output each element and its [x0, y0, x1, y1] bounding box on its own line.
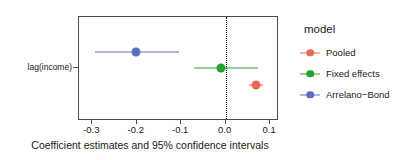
legend-key-icon: [300, 47, 320, 59]
legend-key-icon: [300, 89, 320, 101]
x-axis-tick-label: 0.0: [218, 124, 231, 136]
x-axis-tick-label: -0.1: [172, 124, 188, 136]
legend-item[interactable]: Arrelano−Bond: [300, 85, 415, 104]
legend-title: model: [304, 22, 415, 36]
legend-item[interactable]: Fixed effects: [300, 64, 415, 83]
legend: model PooledFixed effectsArrelano−Bond: [300, 22, 415, 106]
point-estimate-dot: [251, 81, 260, 90]
legend-item-label: Fixed effects: [326, 68, 380, 80]
x-axis-title: Coefficient estimates and 95% confidence…: [0, 139, 300, 152]
confidence-interval-line: [194, 68, 257, 69]
x-axis-tick-label: -0.2: [128, 124, 144, 136]
x-axis-tick-label: -0.3: [83, 124, 99, 136]
legend-key-icon: [300, 68, 320, 80]
point-estimate-dot: [132, 48, 141, 57]
legend-item-label: Arrelano−Bond: [326, 89, 390, 101]
legend-item[interactable]: Pooled: [300, 43, 415, 62]
x-axis-tick-label: 0.1: [263, 124, 276, 136]
coefficient-plot-figure: lag(income) -0.3-0.2-0.10.00.1 Coefficie…: [0, 0, 415, 160]
legend-item-label: Pooled: [326, 47, 356, 59]
y-axis-category-label: lag(income): [28, 62, 72, 72]
y-axis-tick: [73, 67, 78, 68]
legend-items: PooledFixed effectsArrelano−Bond: [300, 43, 415, 104]
point-estimate-dot: [217, 64, 226, 73]
